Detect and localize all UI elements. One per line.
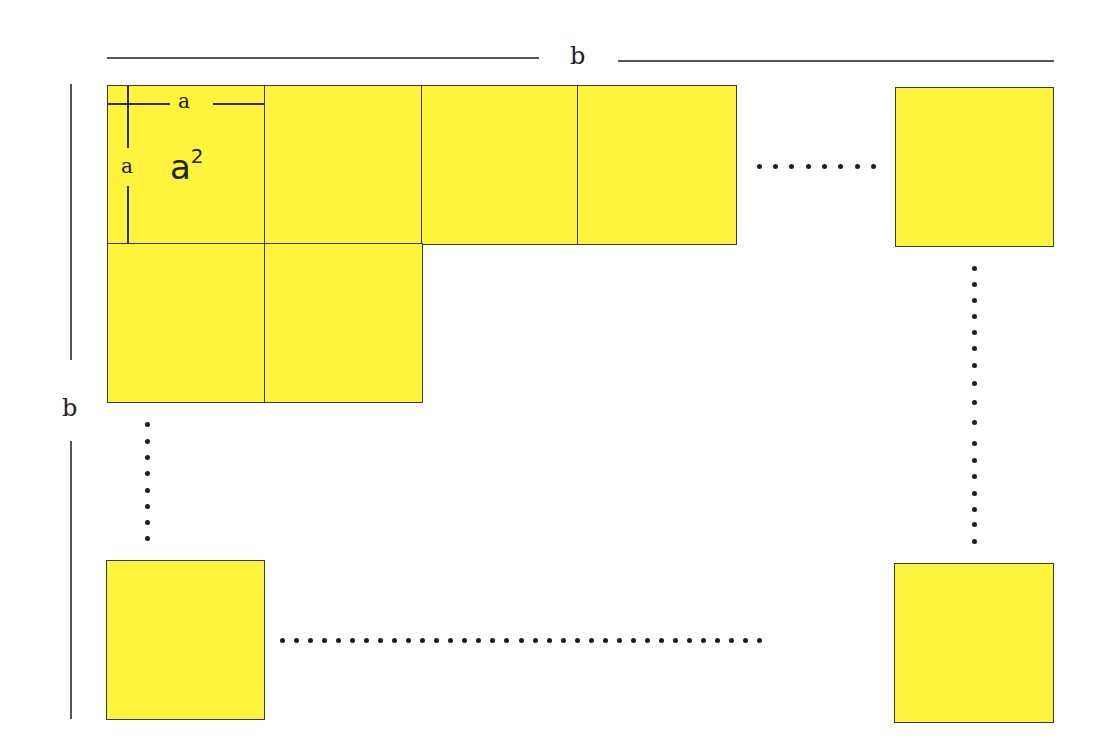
ellipsis-dot — [972, 441, 977, 446]
ellipsis-dot — [547, 638, 552, 643]
ellipsis-dot — [701, 638, 706, 643]
ellipsis-dot — [603, 638, 608, 643]
unit-square-r1-last — [895, 87, 1054, 247]
ellipsis-dot — [822, 164, 827, 169]
unit-square-last-row-first — [106, 560, 265, 720]
ellipsis-dot — [145, 455, 150, 460]
unit-square-last-row-last — [894, 563, 1054, 723]
ellipsis-dot — [145, 471, 150, 476]
ellipsis-dot — [757, 164, 762, 169]
ellipsis-dot — [490, 638, 495, 643]
top-dimension-line-right — [618, 60, 1054, 62]
ellipsis-dot — [350, 638, 355, 643]
ellipsis-dot — [972, 539, 977, 544]
ellipsis-dot — [280, 638, 285, 643]
ellipsis-dot — [434, 638, 439, 643]
ellipsis-dot — [972, 400, 977, 405]
ellipsis-dot — [519, 638, 524, 643]
area-base: a — [170, 147, 191, 187]
ellipsis-dot — [589, 638, 594, 643]
unit-side-top-label: a — [178, 91, 190, 111]
unit-square-r2c1 — [107, 243, 266, 403]
ellipsis-dot — [575, 638, 580, 643]
ellipsis-dot — [336, 638, 341, 643]
ellipsis-dot — [533, 638, 538, 643]
ellipsis-dot — [378, 638, 383, 643]
ellipsis-dot — [806, 164, 811, 169]
ellipsis-dot — [972, 298, 977, 303]
unit-square-r1c1: a a a2 — [107, 85, 266, 245]
unit-square-r1c3 — [421, 85, 579, 245]
area-exponent: 2 — [191, 144, 204, 168]
ellipsis-dot — [871, 164, 876, 169]
ellipsis-dot — [972, 330, 977, 335]
ellipsis-dot — [972, 381, 977, 386]
ellipsis-dot — [308, 638, 313, 643]
ellipsis-dot — [448, 638, 453, 643]
left-dimension-label: b — [62, 396, 77, 420]
ellipsis-dot — [145, 520, 150, 525]
ellipsis-dot — [972, 491, 977, 496]
unit-area-label: a2 — [170, 150, 204, 184]
ellipsis-dot — [406, 638, 411, 643]
ellipsis-dot — [145, 488, 150, 493]
left-dimension-line-top — [70, 84, 72, 360]
ellipsis-dot — [145, 422, 150, 427]
ellipsis-dot — [145, 504, 150, 509]
ellipsis-dot — [972, 363, 977, 368]
ellipsis-dot — [757, 638, 762, 643]
ellipsis-dot — [972, 314, 977, 319]
unit-side-left-line-top — [127, 86, 129, 148]
ellipsis-dot — [322, 638, 327, 643]
ellipsis-dot — [687, 638, 692, 643]
top-dimension-line-left — [107, 57, 539, 59]
ellipsis-dot — [420, 638, 425, 643]
ellipsis-dot — [561, 638, 566, 643]
ellipsis-dot — [743, 638, 748, 643]
ellipsis-dot — [838, 164, 843, 169]
ellipsis-dot — [729, 638, 734, 643]
unit-side-top-line-left — [108, 103, 170, 105]
unit-square-r1c4 — [577, 85, 737, 245]
ellipsis-dot — [631, 638, 636, 643]
ellipsis-dot — [476, 638, 481, 643]
ellipsis-dot — [715, 638, 720, 643]
unit-square-r1c2 — [264, 85, 423, 245]
ellipsis-dot — [462, 638, 467, 643]
ellipsis-dot — [972, 420, 977, 425]
ellipsis-dot — [392, 638, 397, 643]
ellipsis-dot — [972, 282, 977, 287]
ellipsis-dot — [972, 266, 977, 271]
top-dimension-label: b — [570, 44, 585, 68]
ellipsis-dot — [145, 439, 150, 444]
ellipsis-dot — [972, 522, 977, 527]
unit-square-r2c2 — [264, 243, 423, 403]
unit-side-left-line-bottom — [127, 186, 129, 244]
ellipsis-dot — [972, 474, 977, 479]
ellipsis-dot — [659, 638, 664, 643]
ellipsis-dot — [789, 164, 794, 169]
ellipsis-dot — [364, 638, 369, 643]
unit-side-top-line-right — [213, 103, 265, 105]
ellipsis-dot — [504, 638, 509, 643]
ellipsis-dot — [145, 536, 150, 541]
ellipsis-dot — [645, 638, 650, 643]
ellipsis-dot — [855, 164, 860, 169]
ellipsis-dot — [617, 638, 622, 643]
ellipsis-dot — [972, 507, 977, 512]
ellipsis-dot — [972, 458, 977, 463]
unit-side-left-label: a — [121, 156, 133, 176]
left-dimension-line-bottom — [70, 441, 72, 719]
ellipsis-dot — [972, 346, 977, 351]
ellipsis-dot — [294, 638, 299, 643]
ellipsis-dot — [773, 164, 778, 169]
ellipsis-dot — [673, 638, 678, 643]
